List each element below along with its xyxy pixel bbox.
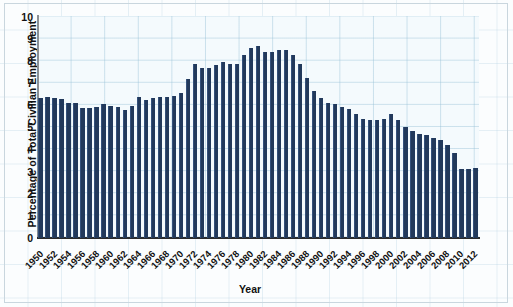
bar bbox=[375, 120, 379, 238]
y-tick-9: 9 bbox=[7, 34, 33, 44]
bar bbox=[291, 55, 295, 238]
x-axis-title: Year bbox=[0, 283, 500, 295]
y-tick-5: 5 bbox=[7, 122, 33, 132]
y-tick-10: 10 bbox=[7, 12, 33, 22]
bar bbox=[438, 140, 442, 238]
bar bbox=[340, 107, 344, 238]
bar bbox=[242, 55, 246, 238]
bar bbox=[193, 64, 197, 238]
bar bbox=[87, 108, 91, 238]
bar bbox=[431, 138, 435, 238]
bar bbox=[319, 98, 323, 238]
bar bbox=[333, 104, 337, 238]
bar bbox=[158, 97, 162, 238]
bar bbox=[179, 93, 183, 238]
bar bbox=[347, 109, 351, 238]
y-tick-0: 0 bbox=[7, 233, 33, 243]
bar bbox=[186, 79, 190, 238]
bar bbox=[389, 114, 393, 238]
chart-figure: Percentage of Total Civilian Employment … bbox=[0, 0, 513, 307]
bar bbox=[452, 153, 456, 238]
bar bbox=[424, 135, 428, 238]
bar bbox=[284, 50, 288, 238]
bar bbox=[207, 68, 211, 238]
bar bbox=[256, 46, 260, 238]
bar bbox=[101, 104, 105, 238]
bar bbox=[214, 65, 218, 238]
bar bbox=[80, 108, 84, 238]
bar bbox=[144, 100, 148, 238]
bar bbox=[410, 131, 414, 238]
bar bbox=[137, 97, 141, 238]
bar-series bbox=[37, 16, 479, 238]
bar bbox=[445, 145, 449, 238]
bar bbox=[382, 119, 386, 238]
bar bbox=[354, 114, 358, 238]
bar bbox=[473, 168, 477, 238]
bar bbox=[326, 103, 330, 238]
bar bbox=[403, 127, 407, 238]
bar bbox=[172, 96, 176, 238]
bar bbox=[396, 120, 400, 238]
y-tick-4: 4 bbox=[7, 144, 33, 154]
bar bbox=[116, 107, 120, 238]
bar bbox=[368, 120, 372, 238]
bar bbox=[305, 78, 309, 238]
y-tick-6: 6 bbox=[7, 100, 33, 110]
bar bbox=[417, 134, 421, 238]
bar bbox=[123, 110, 127, 238]
bar bbox=[235, 64, 239, 238]
bar bbox=[66, 103, 70, 238]
bar bbox=[312, 91, 316, 238]
bar bbox=[298, 64, 302, 238]
bar bbox=[270, 52, 274, 238]
bar bbox=[151, 98, 155, 238]
y-tick-2: 2 bbox=[7, 189, 33, 199]
y-tick-7: 7 bbox=[7, 78, 33, 88]
bar bbox=[52, 98, 56, 238]
bar bbox=[459, 169, 463, 238]
y-tick-3: 3 bbox=[7, 167, 33, 177]
bar bbox=[165, 97, 169, 238]
x-axis-tick-labels: 1950195219541956195819601962196419661968… bbox=[37, 239, 482, 285]
bar bbox=[200, 68, 204, 238]
bar bbox=[94, 107, 98, 238]
bar bbox=[466, 169, 470, 238]
bar bbox=[38, 98, 42, 238]
bar bbox=[73, 103, 77, 238]
bar bbox=[130, 106, 134, 238]
y-tick-8: 8 bbox=[7, 56, 33, 66]
bar bbox=[277, 50, 281, 238]
bar bbox=[108, 106, 112, 238]
bar bbox=[221, 62, 225, 238]
bar bbox=[249, 48, 253, 238]
bar bbox=[361, 119, 365, 238]
bar bbox=[263, 52, 267, 238]
bar bbox=[45, 97, 49, 238]
y-tick-1: 1 bbox=[7, 211, 33, 221]
bar bbox=[59, 99, 63, 238]
bar bbox=[228, 64, 232, 238]
